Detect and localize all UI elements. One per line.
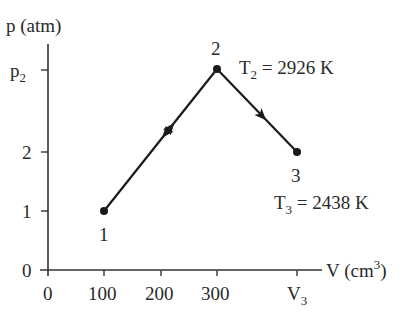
point-2-label: 2	[211, 38, 221, 59]
pv-diagram: p (atm) 0 1 2 p2 0 100 200 300 V3 V (cm3…	[0, 0, 413, 315]
point-3-label: 3	[291, 165, 301, 186]
point-1	[100, 207, 108, 215]
y-tick-1: 1	[22, 201, 32, 222]
segment-1-2	[104, 69, 217, 211]
y-axis: p (atm) 0 1 2 p2	[6, 15, 61, 281]
annotation-t3: T3 = 2438 K	[274, 192, 369, 217]
x-tick-200: 200	[145, 283, 174, 304]
x-axis: 0 100 200 300 V3 V (cm3)	[40, 257, 387, 308]
x-tick-100: 100	[88, 283, 117, 304]
annotation-t2: T2 = 2926 K	[239, 57, 334, 82]
y-tick-0: 0	[22, 260, 32, 281]
x-tick-300: 300	[201, 283, 230, 304]
point-3	[293, 148, 301, 156]
y-tick-2: 2	[22, 142, 32, 163]
point-1-label: 1	[99, 224, 109, 245]
y-axis-label: p (atm)	[6, 15, 61, 37]
annotations: T2 = 2926 K T3 = 2438 K	[239, 57, 369, 217]
process-path	[104, 69, 297, 211]
x-tick-v3: V3	[287, 283, 307, 308]
y-tick-p2: p2	[10, 60, 26, 85]
x-tick-0: 0	[43, 283, 53, 304]
point-2	[213, 65, 221, 73]
x-axis-label: V (cm3)	[326, 257, 387, 282]
